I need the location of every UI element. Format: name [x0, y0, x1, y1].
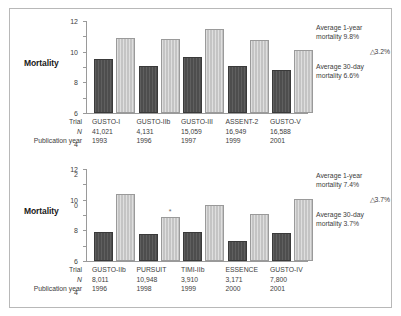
- annotation-thirty-day-bottom: Average 30-day mortality 3.7%: [316, 210, 390, 228]
- x-label-n: 15,059: [181, 127, 229, 137]
- plot-area-bottom: 024681012 *: [86, 169, 308, 261]
- y-tick-label: 8: [74, 79, 78, 86]
- x-label-year: 1999: [181, 284, 229, 294]
- x-label-year: 1997: [181, 136, 229, 146]
- bar-group: [272, 21, 313, 113]
- x-axis-line-bottom: [86, 261, 308, 262]
- x-label-year: 1998: [137, 284, 185, 294]
- y-tick-mark: 10: [83, 36, 86, 37]
- bar-1year: [161, 39, 180, 113]
- bar-30day: [139, 66, 158, 113]
- x-label-year: 1996: [137, 136, 185, 146]
- x-label-year: 1996: [92, 284, 140, 294]
- row-header-trial: Trial: [10, 117, 82, 127]
- bar-30day: [228, 241, 247, 261]
- annotation-line: Average 30-day: [316, 210, 390, 219]
- x-label-trial: TIMI-IIb: [181, 265, 229, 275]
- bar-30day: [94, 232, 113, 261]
- annotation-line: mortality 7.4%: [316, 180, 390, 189]
- bar-30day: [94, 59, 113, 113]
- x-label-trial: ASSENT-2: [226, 117, 274, 127]
- row-header-year: Publication year: [10, 136, 82, 146]
- y-axis-line-bottom: [86, 169, 87, 261]
- y-tick-label: 8: [74, 227, 78, 234]
- x-label-year: 1999: [226, 136, 274, 146]
- x-label-trial: GUSTO-IV: [270, 265, 318, 275]
- bar-1year: [116, 38, 135, 113]
- y-tick-mark: 6: [83, 215, 86, 216]
- bar-1year: [205, 29, 224, 113]
- x-label-trial: GUSTO-III: [181, 117, 229, 127]
- annotation-line: mortality 3.7%: [316, 219, 390, 228]
- annotation-line: Average 1-year: [316, 23, 390, 32]
- chart-panel-top: Mortality 024681012 Trial GUSTO-IGUSTO-I…: [10, 13, 393, 159]
- x-label-trial: GUSTO-V: [270, 117, 318, 127]
- bar-30day: [139, 234, 158, 261]
- x-label-n: 8,011: [92, 275, 140, 285]
- x-label-year: 2000: [226, 284, 274, 294]
- y-tick-mark: 8: [83, 52, 86, 53]
- row-header-year: Publication year: [10, 284, 82, 294]
- x-label-trial: GUSTO-IIb: [92, 265, 140, 275]
- x-label-year: 1993: [92, 136, 140, 146]
- y-tick-mark: 12: [83, 21, 86, 22]
- y-tick-mark: 8: [83, 200, 86, 201]
- y-axis-title-top: Mortality: [24, 58, 59, 68]
- annotation-line: Average 1-year: [316, 171, 390, 180]
- bar-1year: [116, 194, 135, 261]
- x-label-n: 7,800: [270, 275, 318, 285]
- bar-group: [183, 169, 224, 261]
- annotation-delta-bottom: △3.7%: [316, 195, 390, 204]
- x-row-trial-top: Trial GUSTO-IGUSTO-IIbGUSTO-IIIASSENT-2G…: [10, 117, 330, 127]
- x-label-n: 3,171: [226, 275, 274, 285]
- bar-group: *: [139, 169, 180, 261]
- bar-30day: [272, 70, 291, 113]
- bar-1year: [205, 205, 224, 261]
- plot-area-top: 024681012: [86, 21, 308, 113]
- y-axis-line-top: [86, 21, 87, 113]
- bar-group: [183, 21, 224, 113]
- y-tick-mark: 2: [83, 246, 86, 247]
- bar-group: [272, 169, 313, 261]
- x-label-year: 2001: [270, 284, 318, 294]
- x-label-trial: PURSUIT: [137, 265, 185, 275]
- mortality-trials-figure: Mortality 024681012 Trial GUSTO-IGUSTO-I…: [0, 0, 401, 316]
- bar-asterisk-marker: *: [161, 208, 180, 215]
- row-header-n: N: [10, 127, 82, 137]
- x-label-n: 16,949: [226, 127, 274, 137]
- annotation-one-year-top: Average 1-year mortality 9.8%: [316, 23, 390, 41]
- chart-panel-bottom: Mortality 024681012 * Trial GUSTO-IIbPUR…: [10, 161, 393, 305]
- bar-30day: [228, 66, 247, 113]
- bar-1year: [161, 217, 180, 261]
- figure-frame: Mortality 024681012 Trial GUSTO-IGUSTO-I…: [9, 8, 392, 308]
- y-tick-label: 10: [70, 196, 78, 203]
- bar-1year: [250, 214, 269, 261]
- bar-group: [228, 21, 269, 113]
- bar-30day: [272, 233, 291, 261]
- y-tick-mark: 0: [83, 261, 86, 262]
- x-label-trial: GUSTO-I: [92, 117, 140, 127]
- y-tick-label: 6: [74, 258, 78, 265]
- x-row-year-top: Publication year 19931996199719992001: [10, 136, 330, 146]
- annotation-line: mortality 6.6%: [316, 71, 390, 80]
- x-label-n: 4,131: [137, 127, 185, 137]
- x-label-n: 10,948: [137, 275, 185, 285]
- annotation-delta-top: △3.2%: [316, 47, 390, 56]
- bar-group: [94, 169, 135, 261]
- x-row-n-top: N 41,0214,13115,05916,94916,588: [10, 127, 330, 137]
- y-tick-label: 10: [70, 48, 78, 55]
- row-header-n: N: [10, 275, 82, 285]
- y-tick-label: 12: [70, 18, 78, 25]
- y-tick-mark: 6: [83, 67, 86, 68]
- x-label-n: 41,021: [92, 127, 140, 137]
- x-axis-line-top: [86, 113, 308, 114]
- x-label-trial: ESSENCE: [226, 265, 274, 275]
- bar-1year: [250, 40, 269, 113]
- y-axis-title-bottom: Mortality: [24, 206, 59, 216]
- bar-1year: [294, 50, 313, 113]
- bar-30day: [183, 57, 202, 113]
- x-axis-label-table-bottom: Trial GUSTO-IIbPURSUITTIMI-IIbESSENCEGUS…: [10, 265, 330, 294]
- bar-group: [94, 21, 135, 113]
- y-tick-label: 6: [74, 110, 78, 117]
- annotation-thirty-day-top: Average 30-day mortality 6.6%: [316, 62, 390, 80]
